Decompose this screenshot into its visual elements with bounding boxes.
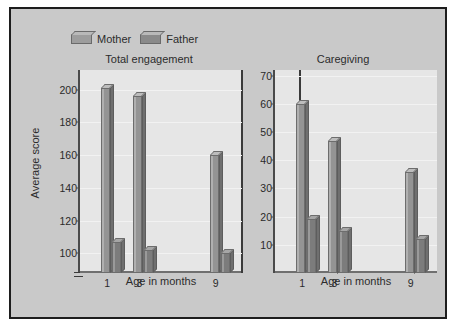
x-axis-label-right: Age in months [275, 275, 437, 287]
legend-item-father: Father [140, 33, 198, 45]
figure-frame: Mother Father Average score Total engage… [9, 7, 447, 319]
y-tick-mark [271, 103, 275, 104]
panel-caregiving: Caregiving 10203040506070139 Age in mont… [249, 53, 437, 293]
bar-side [153, 246, 157, 273]
bar-face [144, 250, 153, 273]
plot-right-spine-left [241, 70, 243, 273]
y-tick-mark [271, 75, 275, 76]
bar-side [121, 238, 125, 273]
bar-mother-9mo [405, 172, 414, 274]
y-tick-mark [271, 188, 275, 189]
bar-mother-1mo [101, 88, 110, 273]
panel-title-right: Caregiving [249, 53, 437, 65]
y-tick-mark [76, 187, 80, 188]
legend-swatch-father-icon [140, 34, 161, 44]
bar-mother-9mo [210, 155, 219, 273]
legend-label-father: Father [166, 33, 198, 45]
bar-face [133, 96, 142, 273]
y-tick-mark [271, 132, 275, 133]
y-tick-label: 120 [59, 215, 77, 227]
bar-father-9mo [221, 253, 230, 273]
y-tick-label: 160 [59, 149, 77, 161]
y-tick-label: 140 [59, 182, 77, 194]
legend-item-mother: Mother [71, 33, 131, 45]
bar-father-1mo [112, 242, 121, 273]
bar-side [425, 235, 429, 273]
bar-father-9mo [416, 239, 425, 273]
panel-total-engagement: Total engagement 100120140160180200139 A… [56, 53, 242, 293]
bar-face [328, 141, 337, 274]
bar-face [405, 172, 414, 274]
plot-area-left: 100120140160180200139 [80, 70, 242, 273]
chart-legend: Mother Father [71, 31, 198, 47]
bar-father-3mo [339, 231, 348, 273]
bar-father-1mo [307, 219, 316, 273]
plot-area-right: 10203040506070139 [275, 70, 437, 273]
bar-face [416, 239, 425, 273]
bar-face [221, 253, 230, 273]
bar-side [348, 227, 352, 273]
y-tick-mark [271, 244, 275, 245]
bar-face [296, 104, 305, 273]
bar-face [112, 242, 121, 273]
bar-face [307, 219, 316, 273]
bar-father-3mo [144, 250, 153, 273]
panel-title-left: Total engagement [56, 53, 242, 65]
bar-face [210, 155, 219, 273]
bar-face [339, 231, 348, 273]
legend-label-mother: Mother [97, 33, 131, 45]
bar-mother-1mo [296, 104, 305, 273]
y-tick-mark [76, 253, 80, 254]
bar-mother-3mo [328, 141, 337, 274]
y-tick-mark [76, 89, 80, 90]
y-tick-mark [76, 220, 80, 221]
y-tick-mark [271, 160, 275, 161]
x-axis-label-left: Age in months [80, 275, 242, 287]
y-tick-label: 180 [59, 116, 77, 128]
y-tick-mark [271, 216, 275, 217]
y-tick-mark [76, 155, 80, 156]
bar-side [142, 92, 146, 273]
y-tick-label: 200 [59, 84, 77, 96]
bar-mother-3mo [133, 96, 142, 273]
y-axis-label: Average score [29, 108, 41, 218]
bar-side [230, 249, 234, 273]
gridline [275, 76, 437, 77]
legend-swatch-mother-icon [71, 34, 92, 44]
bar-face [101, 88, 110, 273]
y-tick-mark [76, 122, 80, 123]
y-tick-label: 100 [59, 247, 77, 259]
bar-side [316, 215, 320, 273]
